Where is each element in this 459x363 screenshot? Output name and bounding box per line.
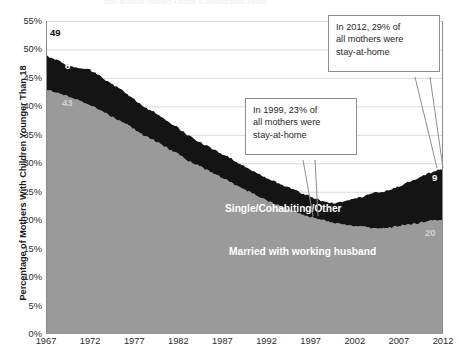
callout-1999-line-1: In 1999, 23% of — [253, 104, 350, 116]
callout-2012: In 2012, 29% of all mothers were stay-at… — [328, 15, 440, 72]
callout-2012-line-3: stay-at-home — [336, 46, 433, 58]
callout-2012-line-1: In 2012, 29% of — [336, 21, 433, 33]
callout-layer: In 2012, 29% of all mothers were stay-at… — [0, 0, 459, 363]
callout-2012-line-2: all mothers were — [336, 33, 433, 45]
stay-at-home-mothers-chart: stay-at-home mothers • social & demograp… — [0, 0, 459, 363]
callout-1999-line-3: stay-at-home — [253, 129, 350, 141]
callout-1999: In 1999, 23% of all mothers were stay-at… — [245, 98, 357, 155]
callout-1999-line-2: all mothers were — [253, 116, 350, 128]
